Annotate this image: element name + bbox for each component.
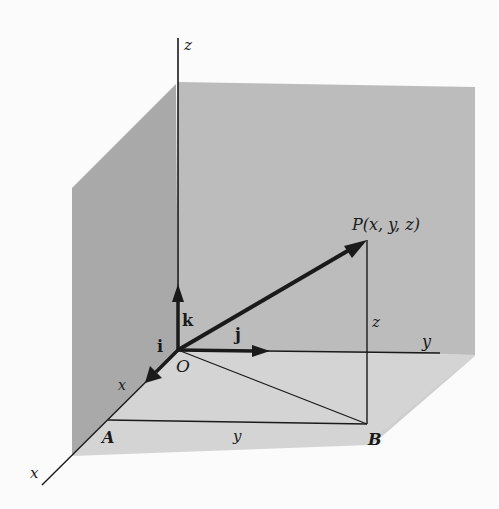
unit-vector-j xyxy=(178,350,254,351)
unit-vector-k-label: k xyxy=(182,311,194,330)
back-wall-yz-plane xyxy=(178,82,475,355)
x-axis-label: x xyxy=(30,464,39,482)
segment-BP-label: z xyxy=(371,313,380,331)
unit-vector-j-label: j xyxy=(233,325,241,344)
origin-label: O xyxy=(176,356,190,376)
diagram-canvas: z y x O k j i P(x, y, z) A B x y z xyxy=(0,0,499,509)
y-axis-label: y xyxy=(421,332,432,351)
z-axis-label: z xyxy=(183,36,192,54)
point-B-label: B xyxy=(367,430,382,449)
point-P-label: P(x, y, z) xyxy=(351,215,420,234)
segment-AB-label: y xyxy=(232,427,242,445)
point-A-label: A xyxy=(100,428,114,447)
coordinate-diagram: z y x O k j i P(x, y, z) A B x y z xyxy=(0,0,499,509)
unit-vector-i-label: i xyxy=(157,337,163,356)
segment-OA-label: x xyxy=(118,377,126,393)
